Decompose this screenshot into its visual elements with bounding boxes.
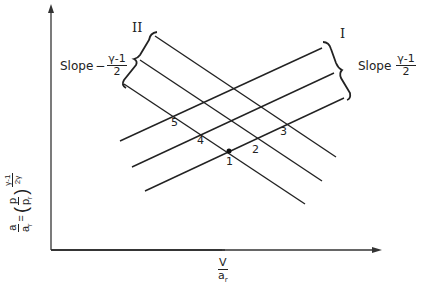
slope-I-fraction: γ-1 2 xyxy=(396,53,415,78)
x-axis-label: V ar xyxy=(218,257,228,286)
family-I-label: I xyxy=(340,26,345,41)
slope-II-fraction: γ-1 2 xyxy=(107,53,126,78)
brace-II-icon xyxy=(123,32,157,88)
y-axis-label: a ar = ( p pr ) γ-1 2γ xyxy=(6,174,36,233)
diagram-canvas xyxy=(0,0,423,286)
point-3-label: 3 xyxy=(280,125,287,138)
x-axis-arrow-icon xyxy=(372,247,382,253)
line-II-3 xyxy=(124,84,305,204)
slope-II-annotation: Slope − γ-1 2 xyxy=(60,53,127,78)
slope-II-text: Slope xyxy=(60,59,93,73)
line-I-3 xyxy=(145,98,344,191)
line-I-2 xyxy=(132,73,334,167)
point-1-marker xyxy=(227,149,232,154)
family-II-label: II xyxy=(132,20,142,35)
point-1-label: 1 xyxy=(226,155,233,168)
point-4-label: 4 xyxy=(197,134,204,147)
point-5-label: 5 xyxy=(171,116,178,129)
slope-I-text: Slope xyxy=(358,59,391,73)
point-2-label: 2 xyxy=(252,143,259,156)
slope-I-annotation: Slope γ-1 2 xyxy=(358,53,416,78)
y-axis-arrow-icon xyxy=(48,4,54,13)
brace-I-icon xyxy=(323,42,350,100)
slope-II-sign: − xyxy=(95,59,105,73)
